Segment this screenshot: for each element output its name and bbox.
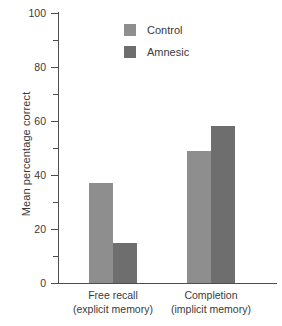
y-axis-title: Mean percentage correct: [20, 64, 32, 244]
legend: Control Amnesic: [124, 21, 189, 65]
bar-amnesic: [113, 243, 137, 284]
x-axis-line: [58, 283, 277, 284]
x-axis-label-completion: Completion (implicit memory): [151, 289, 271, 316]
x-axis-label-free-recall-line1: Free recall: [88, 289, 138, 301]
y-tick-label: 20: [0, 223, 46, 235]
legend-swatch-amnesic-icon: [124, 46, 136, 58]
y-tick-label: 60: [0, 115, 46, 127]
legend-label-amnesic: Amnesic: [147, 46, 189, 58]
bar-control: [89, 183, 113, 283]
y-tick-label: 80: [0, 61, 46, 73]
bar-amnesic: [211, 126, 235, 283]
y-tick-major: [51, 283, 58, 284]
bar-chart: Mean percentage correct 020406080100 Con…: [0, 0, 282, 326]
bar-control: [187, 151, 211, 283]
y-tick-label: 40: [0, 169, 46, 181]
y-tick-label: 0: [0, 277, 46, 289]
y-tick-major: [51, 13, 58, 14]
y-tick-major: [51, 175, 58, 176]
bar-group: [187, 13, 235, 283]
legend-label-control: Control: [147, 24, 182, 36]
legend-swatch-control-icon: [124, 24, 136, 36]
legend-item-amnesic: Amnesic: [124, 43, 189, 61]
y-tick-major: [51, 121, 58, 122]
y-tick-label: 100: [0, 7, 46, 19]
y-tick-major: [51, 67, 58, 68]
y-tick-major: [51, 229, 58, 230]
x-axis-label-completion-line1: Completion: [184, 289, 237, 301]
legend-item-control: Control: [124, 21, 189, 39]
x-axis-label-completion-line2: (implicit memory): [151, 303, 271, 317]
